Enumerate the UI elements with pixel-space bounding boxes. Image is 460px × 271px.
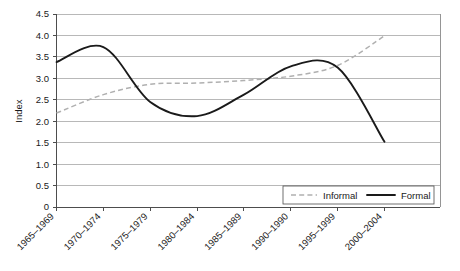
x-tick-label: 1985–1989 [202,211,243,252]
y-tick-labels: 00.51.01.52.02.53.03.54.04.5 [36,8,49,212]
y-tick-label: 1.0 [36,159,49,170]
y-tick-label: 3.5 [36,51,49,62]
plot-area-background [56,14,440,207]
x-tick-label: 1970–1974 [61,211,102,252]
y-tick-label: 0.5 [36,180,49,191]
line-chart: 00.51.01.52.02.53.03.54.04.5 1965–196919… [0,0,460,271]
x-tick-label: 1975–1979 [108,211,149,252]
x-tick-labels: 1965–19691970–19741975–19791980–19841985… [15,211,384,252]
x-tick-label: 1980–1984 [155,211,196,252]
y-tick-label: 1.5 [36,137,49,148]
y-tick-label: 3.0 [36,73,49,84]
x-tick-label: 1990–1990 [249,211,290,252]
y-tick-label: 4.0 [36,30,49,41]
legend-label-informal: Informal [323,190,357,201]
chart-container: 00.51.01.52.02.53.03.54.04.5 1965–196919… [0,0,460,271]
x-tick-label: 2000–2004 [343,211,384,252]
chart-legend[interactable]: Informal Formal [283,186,434,204]
x-tick-label: 1995–1999 [296,211,337,252]
x-tick-label: 1965–1969 [15,211,56,252]
legend-label-formal: Formal [401,190,431,201]
x-tickmarks [57,207,385,211]
y-axis-title: Index [13,99,24,122]
y-tick-label: 2.5 [36,94,49,105]
y-tick-label: 4.5 [36,8,49,19]
y-tick-label: 2.0 [36,116,49,127]
